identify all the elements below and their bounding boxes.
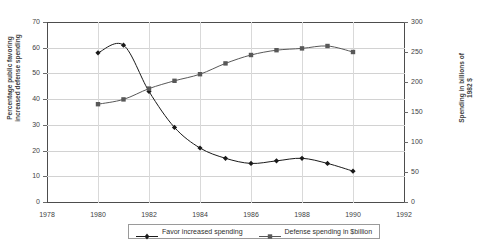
y-axis-right-tickmark [404,202,408,203]
y-axis-right-tickmark [404,142,408,143]
y-axis-left-tickmark [43,99,47,100]
diamond-marker [95,50,100,55]
legend-item: Favor increased spending [136,227,243,236]
square-marker [96,102,100,106]
y-axis-right-tick-label: 150 [411,108,435,115]
x-axis-tick-label: 1986 [236,211,266,218]
series-line [98,46,353,104]
diamond-marker [136,227,158,236]
y-axis-left-tick-label: 20 [18,147,40,154]
y-axis-right-tick-label: 200 [411,78,435,85]
chart-container: PERCEPTIONS AND THE POLITICS OF DEFENSE … [0,0,491,244]
square-marker [121,97,125,101]
y-axis-right-tickmark [404,82,408,83]
y-axis-right-tickmark [404,52,408,53]
square-marker [300,46,304,50]
y-axis-left-tick-label: 70 [18,18,40,25]
diamond-marker [197,145,202,150]
y-axis-left-tick-label: 40 [18,95,40,102]
diamond-marker [350,169,355,174]
y-axis-left-tick-label: 0 [18,198,40,205]
square-marker [351,50,355,54]
chart-legend: Favor increased spendingDefense spending… [128,224,380,239]
square-marker [172,79,176,83]
x-axis-tick-label: 1980 [83,211,113,218]
y-axis-left-tickmark [43,202,47,203]
y-axis-right-tick-label: 50 [411,168,435,175]
y-axis-right-tick-label: 0 [411,198,435,205]
x-axis-tick-label: 1988 [287,211,317,218]
x-axis-tick-label: 1984 [185,211,215,218]
y-axis-left-tickmark [43,48,47,49]
square-marker [274,48,278,52]
y-axis-left-tickmark [43,73,47,74]
diamond-marker [299,156,304,161]
y-axis-left-title: Percentage public favoring increased def… [6,20,22,136]
x-axis-tick-label: 1990 [338,211,368,218]
legend-item-label: Favor increased spending [162,228,243,235]
diamond-marker [223,156,228,161]
y-axis-left-tick-label: 60 [18,44,40,51]
square-marker [198,72,202,76]
square-marker [259,227,281,236]
square-marker [249,53,253,57]
square-marker [325,44,329,48]
y-axis-right-tick-label: 250 [411,48,435,55]
y-axis-left-tick-label: 30 [18,121,40,128]
series-defense-spending [96,44,355,107]
diamond-marker [248,161,253,166]
y-axis-right-tickmark [404,22,408,23]
y-axis-left-tick-label: 50 [18,69,40,76]
y-axis-left-tickmark [43,151,47,152]
square-marker [147,86,151,90]
x-axis-tick-label: 1992 [389,211,419,218]
diamond-marker [325,161,330,166]
y-axis-right-tick-label: 300 [411,18,435,25]
diamond-marker [274,158,279,163]
y-axis-left-tickmark [43,22,47,23]
y-axis-left-tickmark [43,125,47,126]
y-axis-right-tickmark [404,172,408,173]
series-layer [47,22,405,203]
y-axis-left-tickmark [43,176,47,177]
chart-title: PERCEPTIONS AND THE POLITICS OF DEFENSE [0,0,491,2]
square-marker [223,61,227,65]
y-axis-right-title: Spending in billions of 1982 $ [458,34,474,142]
y-axis-right-tick-label: 100 [411,138,435,145]
legend-item: Defense spending in $billion [257,227,373,236]
y-axis-right-tickmark [404,112,408,113]
y-axis-left-tick-label: 10 [18,172,40,179]
x-axis-tick-label: 1978 [32,211,62,218]
legend-item-label: Defense spending in $billion [285,228,373,235]
x-axis-tick-label: 1982 [134,211,164,218]
